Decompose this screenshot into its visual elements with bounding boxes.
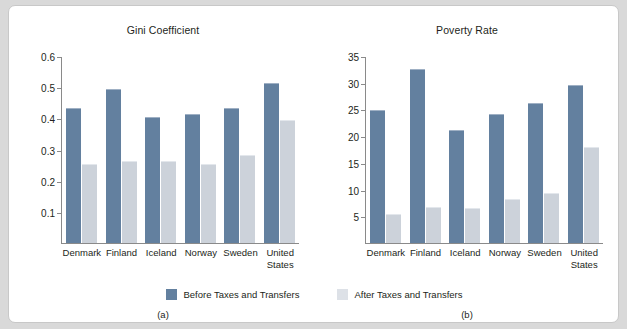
bar-group: [181, 57, 221, 243]
bar-group: [524, 57, 564, 243]
bar-before-taxes[interactable]: [528, 103, 543, 243]
bar-after-taxes[interactable]: [505, 199, 520, 243]
bar-group: [62, 57, 102, 243]
bar-before-taxes[interactable]: [145, 117, 160, 243]
legend-item-before[interactable]: Before Taxes and Transfers: [166, 289, 299, 300]
y-tick-mark: [361, 57, 365, 58]
x-axis-label: Finland: [102, 247, 142, 270]
y-tick-label: 5: [353, 212, 359, 223]
chart-panel-poverty: Poverty Rate 3530252015105 DenmarkFinlan…: [317, 6, 617, 324]
bar-before-taxes[interactable]: [410, 69, 425, 243]
y-tick-label: 20: [348, 132, 359, 143]
x-axis-label: Norway: [181, 247, 221, 270]
bar-before-taxes[interactable]: [106, 89, 121, 243]
y-tick-label: 0.5: [41, 83, 55, 94]
y-tick-mark: [57, 57, 61, 58]
y-tick-label: 10: [348, 185, 359, 196]
y-tick-mark: [361, 164, 365, 165]
legend-item-after[interactable]: After Taxes and Transfers: [337, 289, 462, 300]
x-axis-label: Iceland: [445, 247, 485, 270]
y-tick-mark: [57, 151, 61, 152]
bar-group: [220, 57, 260, 243]
legend-label: After Taxes and Transfers: [354, 289, 462, 300]
y-tick-label: 30: [348, 78, 359, 89]
y-tick-mark: [361, 137, 365, 138]
bar-groups-poverty: [366, 57, 603, 243]
bar-group: [406, 57, 446, 243]
bar-before-taxes[interactable]: [370, 110, 385, 243]
x-axis-labels-poverty: DenmarkFinlandIcelandNorwaySwedenUnited …: [366, 247, 604, 270]
bar-after-taxes[interactable]: [161, 161, 176, 243]
bar-after-taxes[interactable]: [465, 208, 480, 243]
y-tick-mark: [57, 88, 61, 89]
legend-label: Before Taxes and Transfers: [183, 289, 299, 300]
x-axis-label: Sweden: [221, 247, 261, 270]
bar-after-taxes[interactable]: [584, 147, 599, 243]
x-axis-label: Sweden: [525, 247, 565, 270]
bar-group: [141, 57, 181, 243]
chart-panel-gini: Gini Coefficient 0.60.50.40.30.20.1 Denm…: [13, 6, 313, 324]
figure-card: Gini Coefficient 0.60.50.40.30.20.1 Denm…: [8, 5, 619, 323]
y-tick-mark: [57, 213, 61, 214]
panel-letter-a: (a): [13, 309, 313, 320]
bar-group: [445, 57, 485, 243]
y-tick-label: 25: [348, 105, 359, 116]
bar-before-taxes[interactable]: [449, 130, 464, 243]
y-tick-label: 0.2: [41, 176, 55, 187]
bar-group: [564, 57, 604, 243]
y-tick-label: 0.3: [41, 145, 55, 156]
x-axis-label: Finland: [406, 247, 446, 270]
chart-legend: Before Taxes and TransfersAfter Taxes an…: [9, 289, 620, 300]
x-axis-label: Denmark: [366, 247, 406, 270]
bar-after-taxes[interactable]: [426, 207, 441, 243]
bar-group: [102, 57, 142, 243]
y-tick-mark: [361, 110, 365, 111]
bar-after-taxes[interactable]: [240, 155, 255, 243]
legend-swatch-after: [337, 289, 348, 300]
y-tick-mark: [57, 182, 61, 183]
plot-area-poverty: 3530252015105: [365, 57, 603, 244]
y-tick-label: 0.6: [41, 52, 55, 63]
x-axis-line: [365, 243, 603, 244]
x-axis-label: Denmark: [62, 247, 102, 270]
bar-before-taxes[interactable]: [224, 108, 239, 243]
bar-group: [260, 57, 300, 243]
x-axis-label: Iceland: [141, 247, 181, 270]
x-axis-label: United States: [260, 247, 300, 270]
bar-after-taxes[interactable]: [544, 193, 559, 243]
y-tick-label: 0.1: [41, 207, 55, 218]
y-tick-mark: [361, 191, 365, 192]
bar-group: [485, 57, 525, 243]
y-tick-label: 15: [348, 158, 359, 169]
x-axis-labels-gini: DenmarkFinlandIcelandNorwaySwedenUnited …: [62, 247, 300, 270]
bar-group: [366, 57, 406, 243]
legend-swatch-before: [166, 289, 177, 300]
x-axis-label: United States: [564, 247, 604, 270]
bar-before-taxes[interactable]: [568, 85, 583, 243]
bar-after-taxes[interactable]: [82, 164, 97, 243]
bar-before-taxes[interactable]: [264, 83, 279, 243]
chart-title-poverty: Poverty Rate: [317, 24, 617, 36]
bar-after-taxes[interactable]: [386, 214, 401, 243]
x-axis-label: Norway: [485, 247, 525, 270]
chart-title-gini: Gini Coefficient: [13, 24, 313, 36]
y-tick-label: 35: [348, 52, 359, 63]
bar-before-taxes[interactable]: [66, 108, 81, 243]
x-axis-line: [61, 243, 299, 244]
bar-before-taxes[interactable]: [489, 114, 504, 243]
y-tick-mark: [361, 217, 365, 218]
plot-area-gini: 0.60.50.40.30.20.1: [61, 57, 299, 244]
bar-groups-gini: [62, 57, 299, 243]
bar-before-taxes[interactable]: [185, 114, 200, 243]
panel-letter-b: (b): [317, 309, 617, 320]
y-tick-label: 0.4: [41, 114, 55, 125]
y-tick-mark: [57, 119, 61, 120]
y-tick-mark: [361, 84, 365, 85]
bar-after-taxes[interactable]: [122, 161, 137, 243]
bar-after-taxes[interactable]: [201, 164, 216, 243]
bar-after-taxes[interactable]: [280, 120, 295, 243]
